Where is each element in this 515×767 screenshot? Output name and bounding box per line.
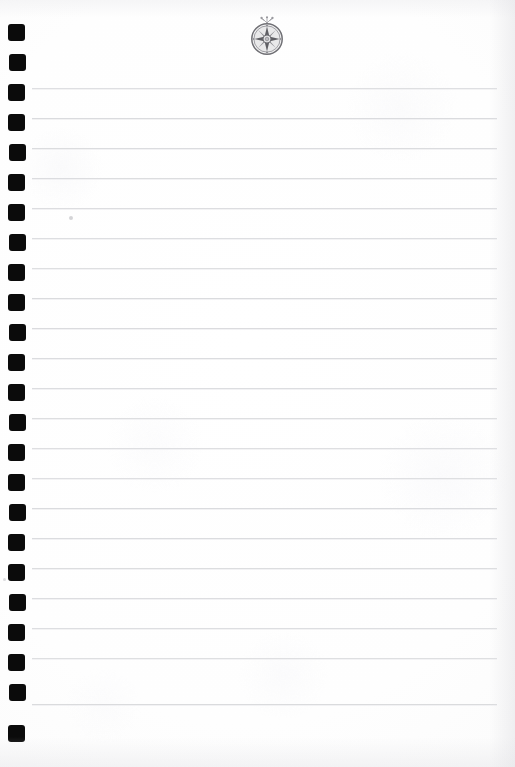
rule-line (32, 508, 497, 509)
compass-rose-medallion-icon (248, 16, 286, 56)
punch-hole (8, 654, 25, 671)
scan-artifact-mark (69, 216, 73, 220)
rule-line (32, 208, 497, 209)
rule-line (32, 358, 497, 359)
punch-hole (8, 264, 25, 281)
punch-hole (8, 534, 25, 551)
punch-hole (8, 444, 25, 461)
punch-hole (9, 54, 26, 71)
punch-hole (8, 354, 25, 371)
punch-hole (8, 84, 25, 101)
punch-hole (8, 294, 25, 311)
rule-line (32, 328, 497, 329)
rule-line (32, 628, 497, 629)
rule-line (32, 478, 497, 479)
scan-artifact-mark-edge (3, 578, 6, 581)
rule-line (32, 238, 497, 239)
rule-line (32, 268, 497, 269)
rule-line (32, 88, 497, 89)
punch-hole (8, 204, 25, 221)
punch-hole (9, 414, 26, 431)
punch-hole (8, 474, 25, 491)
rule-line (32, 298, 497, 299)
punch-hole (8, 174, 25, 191)
punch-hole (8, 624, 25, 641)
rule-line (32, 568, 497, 569)
rule-line (32, 658, 497, 659)
punch-hole (9, 324, 26, 341)
rule-line (32, 418, 497, 419)
rule-line (32, 704, 497, 705)
punch-hole (9, 234, 26, 251)
punch-hole (8, 24, 25, 41)
punch-hole (8, 114, 25, 131)
rule-line (32, 178, 497, 179)
rule-line (32, 148, 497, 149)
paper-surface (0, 0, 515, 767)
rule-line (32, 118, 497, 119)
notebook-page (0, 0, 515, 767)
punch-hole (9, 594, 26, 611)
punch-hole (9, 684, 26, 701)
punch-hole (9, 504, 26, 521)
rule-line (32, 538, 497, 539)
rule-line (32, 448, 497, 449)
punch-hole (9, 144, 26, 161)
punch-hole (8, 384, 25, 401)
rule-line (32, 388, 497, 389)
punch-hole (8, 725, 25, 742)
rule-line (32, 598, 497, 599)
punch-hole (8, 564, 25, 581)
